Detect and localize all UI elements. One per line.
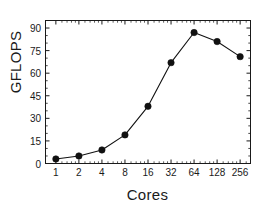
plot-area xyxy=(0,0,266,209)
data-point xyxy=(145,103,151,109)
data-point-markers xyxy=(53,29,244,162)
data-series-line xyxy=(56,33,240,159)
data-point xyxy=(122,132,128,138)
chart-figure: GFLOPS Cores 0153045607590 1248163264128… xyxy=(0,0,266,209)
data-point xyxy=(99,147,105,153)
data-point xyxy=(53,156,59,162)
data-point xyxy=(168,59,174,65)
data-point xyxy=(76,153,82,159)
data-point xyxy=(191,29,197,35)
data-point xyxy=(214,38,220,44)
data-point xyxy=(237,53,243,59)
